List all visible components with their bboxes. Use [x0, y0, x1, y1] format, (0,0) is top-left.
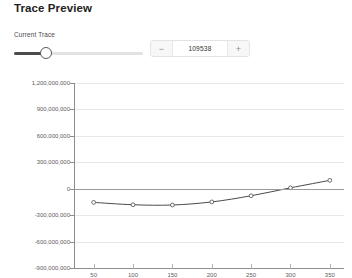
- stepper-increment-button[interactable]: +: [227, 41, 249, 56]
- data-point-marker: [92, 200, 96, 204]
- gridline: [74, 136, 344, 137]
- gridline: [74, 162, 344, 163]
- slider-thumb[interactable]: [40, 47, 52, 59]
- y-tick-mark: [70, 268, 75, 269]
- x-tick-label: 50: [90, 272, 97, 278]
- data-point-marker: [328, 178, 332, 182]
- y-tick-label: -600,000,000: [35, 239, 70, 245]
- y-tick-label: 600,000,000: [37, 133, 70, 139]
- current-trace-stepper[interactable]: − 109538 +: [150, 40, 250, 57]
- y-tick-mark: [70, 242, 75, 243]
- y-tick-mark: [70, 136, 75, 137]
- y-tick-label: -300,000,000: [35, 212, 70, 218]
- y-tick-mark: [70, 109, 75, 110]
- x-tick-mark: [330, 264, 331, 269]
- x-tick-mark: [94, 264, 95, 269]
- current-trace-slider[interactable]: [14, 46, 143, 60]
- y-tick-mark: [70, 162, 75, 163]
- data-point-marker: [170, 203, 174, 207]
- x-tick-mark: [290, 264, 291, 269]
- x-tick-mark: [133, 264, 134, 269]
- stepper-value[interactable]: 109538: [173, 41, 227, 56]
- x-tick-label: 150: [167, 272, 177, 278]
- x-axis-spine: [74, 268, 344, 269]
- page-title: Trace Preview: [14, 2, 92, 14]
- trace-line-series: [74, 83, 344, 268]
- trace-preview-card: Trace Preview Current Trace − 109538 + 1…: [0, 0, 352, 278]
- data-point-marker: [131, 203, 135, 207]
- gridline: [74, 83, 344, 84]
- current-trace-label: Current Trace: [14, 31, 55, 38]
- y-tick-label: 0: [67, 186, 70, 192]
- x-tick-mark: [251, 264, 252, 269]
- gridline: [74, 242, 344, 243]
- data-point-marker: [210, 200, 214, 204]
- y-tick-mark: [70, 215, 75, 216]
- gridline: [74, 215, 344, 216]
- gridline: [74, 109, 344, 110]
- data-point-marker: [249, 194, 253, 198]
- zero-line: [74, 189, 344, 190]
- y-tick-mark: [70, 189, 75, 190]
- y-tick-label: -900,000,000: [35, 265, 70, 271]
- trace-chart: 1,200,000,000900,000,000600,000,000300,0…: [0, 76, 352, 278]
- y-tick-label: 300,000,000: [37, 159, 70, 165]
- y-tick-mark: [70, 83, 75, 84]
- y-tick-label: 900,000,000: [37, 106, 70, 112]
- x-tick-label: 250: [246, 272, 256, 278]
- y-tick-label: 1,200,000,000: [32, 80, 70, 86]
- x-tick-mark: [172, 264, 173, 269]
- stepper-decrement-button[interactable]: −: [151, 41, 173, 56]
- x-tick-label: 300: [285, 272, 295, 278]
- chart-plot-area: [74, 83, 344, 268]
- y-axis-spine: [74, 83, 75, 268]
- x-tick-label: 100: [128, 272, 138, 278]
- x-tick-label: 200: [207, 272, 217, 278]
- x-tick-label: 350: [325, 272, 335, 278]
- x-tick-mark: [212, 264, 213, 269]
